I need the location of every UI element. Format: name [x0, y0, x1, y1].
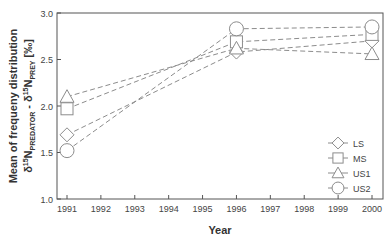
line-chart: 1.01.52.02.53.01991199219931994199519961…	[0, 0, 390, 240]
legend-label: LS	[353, 139, 364, 149]
square-marker-icon	[61, 103, 73, 115]
svg-text:δ15NPREDATOR - δ15NPREY [‰]: δ15NPREDATOR - δ15NPREY [‰]	[22, 39, 36, 173]
series-ms	[67, 34, 372, 108]
triangle-marker-icon	[60, 90, 74, 103]
x-axis-label: Year	[208, 224, 232, 236]
series-line	[67, 34, 372, 108]
y-axis-label-line2: δ15NPREDATOR - δ15NPREY [‰]	[22, 39, 36, 173]
series-markers-ls	[60, 34, 379, 142]
data-series	[60, 20, 379, 158]
x-tick-label: 1994	[159, 204, 179, 214]
legend-item-us1: US1	[328, 167, 371, 178]
series-line	[67, 41, 372, 135]
legend-label: US1	[353, 169, 371, 179]
series-line	[67, 27, 372, 151]
series-us2	[67, 27, 372, 151]
y-tick-label: 1.5	[40, 148, 53, 158]
legend-item-ms: MS	[328, 153, 367, 164]
circle-marker-icon	[332, 182, 344, 194]
legend: LSMSUS1US2	[328, 137, 371, 194]
y-tick-label: 1.0	[40, 195, 53, 205]
x-tick-label: 1991	[57, 204, 77, 214]
square-marker-icon	[333, 153, 343, 163]
x-tick-label: 1993	[125, 204, 145, 214]
x-tick-label: 1992	[91, 204, 111, 214]
x-tick-label: 2000	[362, 204, 382, 214]
series-ls	[67, 41, 372, 135]
x-tick-label: 1999	[328, 204, 348, 214]
circle-marker-icon	[60, 144, 74, 158]
legend-item-ls: LS	[328, 137, 364, 149]
circle-marker-icon	[365, 20, 379, 34]
y-tick-label: 2.0	[40, 102, 53, 112]
y-axis-label-line1: Mean of frequeny distribution	[7, 28, 19, 183]
series-us1	[67, 48, 372, 96]
x-tick-label: 1998	[294, 204, 314, 214]
circle-marker-icon	[229, 22, 243, 36]
plot-area: 1.01.52.02.53.01991199219931994199519961…	[40, 9, 383, 215]
legend-label: MS	[353, 154, 367, 164]
x-tick-label: 1996	[226, 204, 246, 214]
diamond-marker-icon	[60, 128, 74, 142]
x-tick-label: 1997	[260, 204, 280, 214]
triangle-marker-icon	[332, 167, 344, 178]
diamond-marker-icon	[332, 137, 344, 149]
legend-label: US2	[353, 184, 371, 194]
x-tick-label: 1995	[193, 204, 213, 214]
series-line	[67, 48, 372, 96]
y-tick-label: 3.0	[40, 9, 53, 19]
y-tick-label: 2.5	[40, 55, 53, 65]
legend-item-us2: US2	[328, 182, 371, 194]
